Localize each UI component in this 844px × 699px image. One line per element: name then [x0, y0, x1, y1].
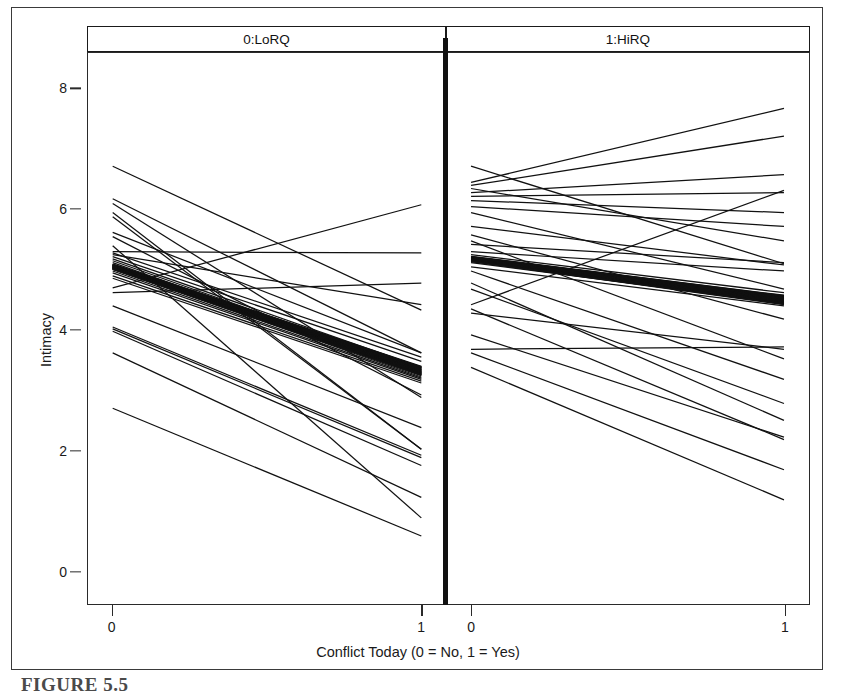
subject-slope-line	[471, 347, 784, 349]
strip-label-lorq: 0:LoRQ	[243, 32, 290, 47]
figure-frame: 0:LoRQ 1:HiRQ 02468 Intimacy 0101 Confli…	[11, 7, 823, 670]
subject-slope-line	[471, 353, 784, 470]
y-tick-mark	[70, 208, 81, 209]
y-tick-label: 8	[59, 80, 67, 96]
x-tick-mark	[421, 605, 422, 616]
x-tick-label: 1	[781, 619, 789, 635]
subject-slope-line	[471, 309, 784, 440]
subject-slope-line	[471, 193, 784, 197]
subject-slope-line	[113, 408, 422, 536]
panel-divider	[443, 38, 448, 605]
subject-slope-line	[471, 201, 784, 213]
y-tick-label: 2	[59, 443, 67, 459]
panel-strip-header-left: 0:LoRQ	[87, 26, 446, 52]
subject-slope-line	[471, 108, 784, 182]
subject-slope-line	[113, 217, 422, 449]
panel-strip-header-right: 1:HiRQ	[446, 26, 810, 52]
y-tick-mark	[70, 88, 81, 89]
subject-slope-line	[113, 329, 422, 458]
subject-slope-line	[471, 283, 784, 420]
x-tick-label: 0	[467, 619, 475, 635]
subject-slope-line	[471, 367, 784, 499]
y-tick-mark	[70, 329, 81, 330]
panel-hirq-lines	[446, 53, 809, 604]
x-axis-title: Conflict Today (0 = No, 1 = Yes)	[12, 644, 824, 660]
x-tick-mark	[471, 605, 472, 616]
y-tick-label: 0	[59, 564, 67, 580]
y-tick-label: 6	[59, 201, 67, 217]
y-tick-mark	[70, 571, 81, 572]
x-tick-label: 1	[417, 619, 425, 635]
x-tick-label: 0	[108, 619, 116, 635]
plot-area: 0:LoRQ 1:HiRQ 02468 Intimacy 0101 Confli…	[12, 8, 824, 671]
subject-slope-line	[471, 136, 784, 185]
subject-slope-line	[113, 353, 422, 498]
strip-label-hirq: 1:HiRQ	[606, 32, 650, 47]
panel-lorq	[87, 52, 446, 605]
subject-slope-line	[113, 253, 422, 357]
y-tick-label: 4	[59, 322, 67, 338]
subject-slope-line	[471, 313, 784, 349]
subject-slope-line	[113, 232, 422, 352]
y-axis-title: Intimacy	[38, 270, 54, 410]
x-tick-mark	[785, 605, 786, 616]
x-tick-mark	[112, 605, 113, 616]
figure-caption-strip: FIGURE 5.5	[11, 678, 823, 699]
average-slope-line	[113, 269, 422, 375]
panel-lorq-lines	[88, 53, 446, 604]
panel-hirq	[446, 52, 810, 605]
subject-slope-line	[113, 204, 422, 398]
subject-slope-line	[471, 175, 784, 193]
subject-slope-line	[113, 246, 422, 518]
y-tick-mark	[70, 450, 81, 451]
figure-caption: FIGURE 5.5	[21, 678, 128, 696]
